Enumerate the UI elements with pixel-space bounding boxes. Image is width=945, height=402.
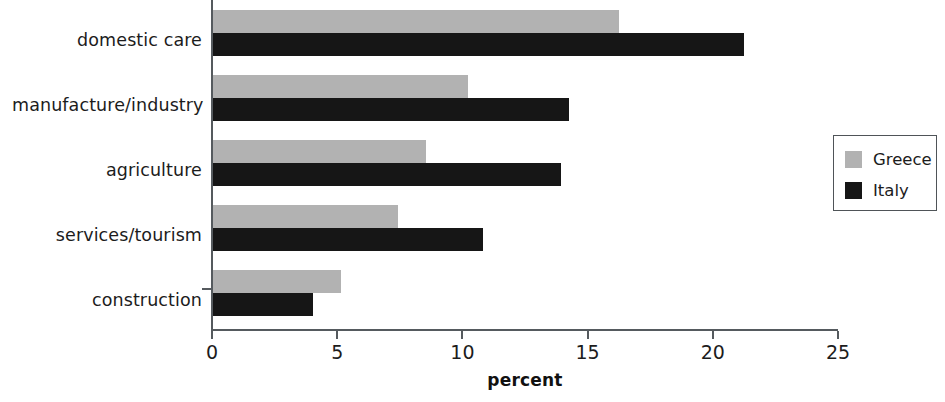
x-axis-title: percent (211, 370, 839, 390)
bar-greece-1 (213, 75, 468, 98)
x-axis-tick-10 (461, 331, 463, 339)
bar-italy-2 (213, 163, 561, 186)
x-axis-tick-label-15: 15 (558, 341, 618, 363)
legend-entry-greece: Greece (845, 150, 932, 168)
bar-italy-0 (213, 33, 744, 56)
category-label-1: manufacture/industry (12, 97, 202, 115)
bar-italy-1 (213, 98, 569, 121)
x-axis-tick-25 (837, 331, 839, 339)
x-axis-tick-5 (336, 331, 338, 339)
greece-swatch-icon (845, 151, 862, 168)
legend: Greece Italy (833, 135, 937, 211)
x-axis-tick-label-5: 5 (307, 341, 367, 363)
bar-greece-3 (213, 205, 398, 228)
legend-entry-italy: Italy (845, 181, 909, 199)
legend-label-greece: Greece (873, 150, 932, 169)
x-axis-tick-0 (211, 331, 213, 339)
category-label-0: domestic care (12, 32, 202, 50)
x-axis-tick-20 (712, 331, 714, 339)
x-axis-line (211, 329, 838, 331)
legend-label-italy: Italy (873, 181, 909, 200)
x-axis-tick-label-25: 25 (808, 341, 868, 363)
bar-italy-4 (213, 293, 313, 316)
category-label-4: construction (12, 292, 202, 310)
category-label-3: services/tourism (12, 227, 202, 245)
bar-greece-2 (213, 140, 426, 163)
bar-chart: domestic care manufacture/industry agric… (0, 0, 945, 402)
bar-greece-4 (213, 270, 341, 293)
y-axis-tick-4 (202, 288, 211, 290)
x-axis-tick-label-20: 20 (683, 341, 743, 363)
bar-greece-0 (213, 10, 619, 33)
x-axis-tick-label-0: 0 (182, 341, 242, 363)
italy-swatch-icon (845, 182, 862, 199)
x-axis-tick-label-10: 10 (432, 341, 492, 363)
category-label-2: agriculture (12, 162, 202, 180)
bar-italy-3 (213, 228, 483, 251)
x-axis-tick-15 (587, 331, 589, 339)
